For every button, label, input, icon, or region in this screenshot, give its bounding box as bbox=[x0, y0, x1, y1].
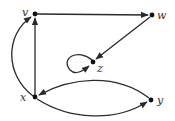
label-y: y bbox=[156, 94, 164, 107]
node-w bbox=[150, 13, 155, 18]
label-x: x bbox=[20, 91, 27, 104]
node-x bbox=[33, 95, 38, 100]
edge-w-to-z bbox=[96, 17, 150, 59]
directed-graph: v w z x y bbox=[0, 0, 175, 121]
node-y bbox=[149, 98, 154, 103]
label-w: w bbox=[157, 9, 167, 22]
edge-y-to-x bbox=[39, 80, 149, 98]
edge-x-to-y bbox=[37, 99, 147, 116]
label-z: z bbox=[96, 62, 103, 75]
edge-z-self-loop bbox=[67, 55, 92, 73]
node-v bbox=[33, 12, 38, 17]
node-z bbox=[91, 60, 96, 65]
edge-x-to-v-curved bbox=[12, 17, 33, 96]
label-v: v bbox=[22, 6, 29, 19]
edge-v-to-w bbox=[37, 14, 148, 15]
